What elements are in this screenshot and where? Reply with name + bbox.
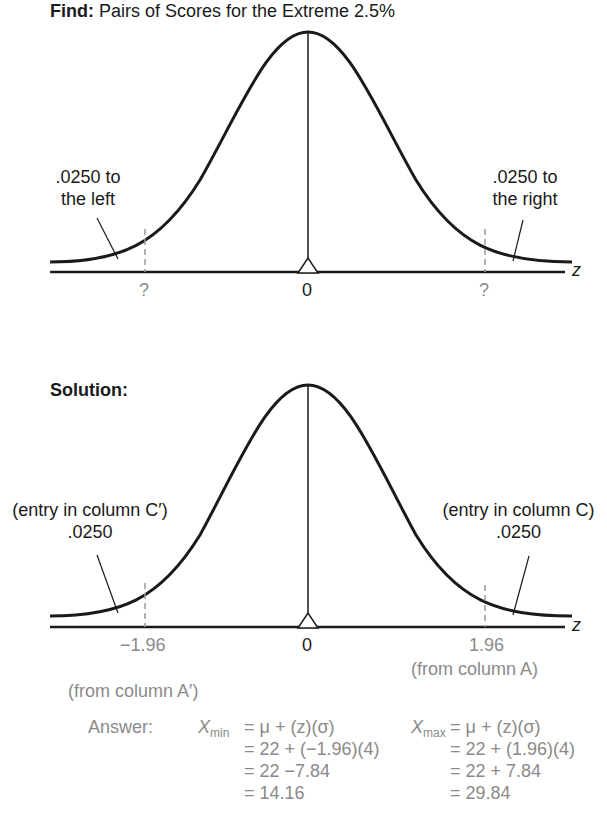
find-left-tail-value: .0250 to (28, 166, 148, 188)
find-z-axis-label: z (572, 260, 581, 281)
find-left-pointer (97, 218, 118, 259)
answer-label: Answer: (88, 716, 153, 738)
find-right-tail-value: .0250 to (465, 166, 585, 188)
find-mean-triangle (298, 258, 318, 273)
xmin-step-3: = 22 −7.84 (244, 760, 380, 782)
solution-center-tick: 0 (302, 635, 312, 656)
find-right-tail-desc: the right (465, 188, 585, 210)
solution-left-tail-label: (entry in column C′) .0250 (0, 499, 180, 543)
answer-xmax-derivation: = μ + (z)(σ) = 22 + (1.96)(4) = 22 + 7.8… (450, 716, 575, 804)
solution-z-axis-label: z (572, 615, 581, 636)
solution-heading: Solution: (50, 380, 128, 401)
answer-xmin-var: Xmin (198, 716, 229, 744)
solution-mean-triangle (298, 613, 318, 628)
solution-right-tail-desc: (entry in column C) (430, 499, 607, 521)
solution-right-tick: 1.96 (469, 635, 504, 656)
xmax-step-4: = 29.84 (450, 782, 575, 804)
find-center-tick: 0 (302, 280, 312, 301)
xmin-symbol: X (198, 717, 210, 737)
solution-left-pointer (97, 555, 118, 613)
xmin-step-4: = 14.16 (244, 782, 380, 804)
find-right-tick: ? (479, 280, 489, 301)
find-right-pointer (513, 220, 523, 261)
find-left-tick: ? (139, 280, 149, 301)
xmin-step-1: = μ + (z)(σ) (244, 716, 380, 738)
solution-right-tail-value: .0250 (430, 521, 607, 543)
solution-left-tick-note: (from column A′) (68, 681, 198, 702)
answer-xmin-derivation: = μ + (z)(σ) = 22 + (−1.96)(4) = 22 −7.8… (244, 716, 380, 804)
xmin-step-2: = 22 + (−1.96)(4) (244, 738, 380, 760)
xmax-symbol: X (411, 717, 423, 737)
solution-left-tail-value: .0250 (0, 521, 180, 543)
answer-xmax-var: Xmax (411, 716, 446, 744)
xmax-step-3: = 22 + 7.84 (450, 760, 575, 782)
solution-right-tick-note: (from column A) (411, 659, 538, 680)
find-right-tail-label: .0250 to the right (465, 166, 585, 210)
find-normal-curve (50, 32, 572, 262)
xmax-step-2: = 22 + (1.96)(4) (450, 738, 575, 760)
solution-right-tail-label: (entry in column C) .0250 (430, 499, 607, 543)
solution-left-tick: −1.96 (120, 635, 166, 656)
xmax-step-1: = μ + (z)(σ) (450, 716, 575, 738)
find-left-tail-label: .0250 to the left (28, 166, 148, 210)
solution-left-tail-desc: (entry in column C′) (0, 499, 180, 521)
solution-right-pointer (513, 556, 529, 615)
find-left-tail-desc: the left (28, 188, 148, 210)
xmax-subscript: max (423, 726, 446, 740)
xmin-subscript: min (210, 726, 229, 740)
